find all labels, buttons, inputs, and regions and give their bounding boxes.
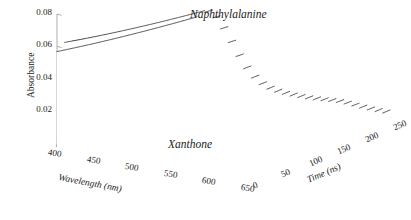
z-tick-label-0.04: 0.04 bbox=[36, 72, 52, 82]
x-tick-label-500: 500 bbox=[124, 161, 139, 173]
x-tick-label-600: 600 bbox=[202, 175, 217, 187]
waterfall-figure: Absorbance Wavelength (nm) Time (ns) Nap… bbox=[0, 0, 411, 220]
z-tick bbox=[57, 14, 62, 15]
z-tick-label-0.06: 0.06 bbox=[36, 39, 52, 49]
x-tick bbox=[56, 143, 57, 147]
plot-canvas bbox=[0, 0, 411, 220]
z-tick bbox=[57, 46, 62, 47]
z-tick-label-0.02: 0.02 bbox=[36, 104, 52, 114]
z-tick-label-0.08: 0.08 bbox=[36, 7, 52, 17]
naphthylalanine-label: Naphthylalanine bbox=[190, 8, 267, 20]
z-axis-title: Absorbance bbox=[26, 53, 36, 98]
xanthone-label: Xanthone bbox=[168, 138, 212, 150]
